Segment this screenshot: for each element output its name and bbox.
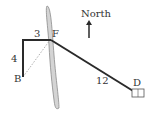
- dashed-line-b-f: [23, 40, 50, 77]
- label-segment-long: 12: [96, 75, 109, 86]
- label-segment-left: 4: [11, 53, 17, 64]
- north-arrowhead-icon: [86, 20, 92, 25]
- label-segment-top: 3: [34, 28, 40, 39]
- river-shape: [46, 6, 59, 109]
- label-point-d: D: [133, 77, 141, 88]
- label-north: North: [81, 8, 112, 19]
- map-diagram: North F 3 4 B 12 D: [0, 0, 155, 114]
- path-f-d: [51, 40, 138, 94]
- label-point-b: B: [14, 73, 21, 84]
- label-point-f: F: [52, 28, 59, 39]
